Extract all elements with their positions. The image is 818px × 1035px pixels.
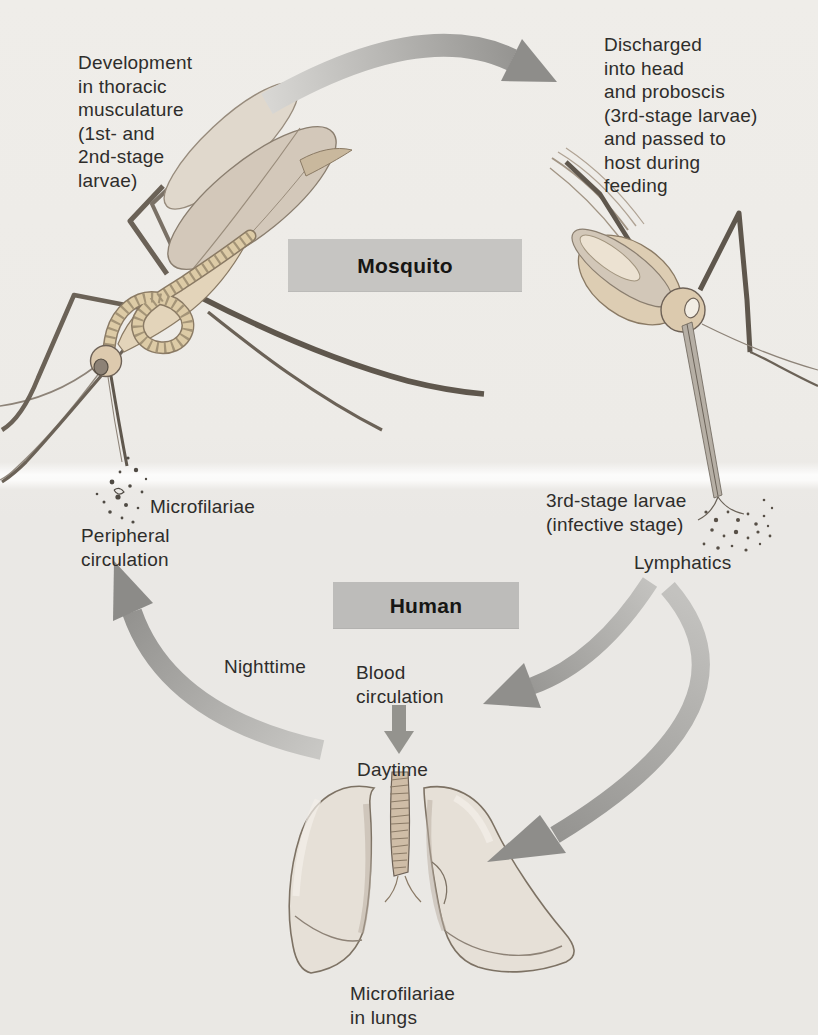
arrow-lymphatics-to-lungs [487,588,701,862]
trachea [385,772,421,902]
mosquito-illustration-right [550,148,818,520]
microfilariae-speckles [96,456,148,523]
label-discharged-proboscis: Discharged into head and proboscis (3rd-… [604,33,758,198]
arrow-blood-circulation-to-daytime [384,705,414,754]
label-blood-circulation: Blood circulation [356,661,444,708]
label-development-thoracic: Development in thoracic musculature (1st… [78,51,192,192]
label-microfilariae-in-lungs: Microfilariae in lungs [350,982,455,1029]
label-third-stage-larvae: 3rd-stage larvae (infective stage) [546,489,687,536]
host-box-human: Human [333,582,519,629]
lungs-illustration [289,772,574,973]
label-lymphatics: Lymphatics [634,551,731,575]
label-nighttime: Nighttime [224,655,306,679]
label-microfilariae: Microfilariae [150,495,255,519]
diagram-canvas: Mosquito Human Development in thoracic m… [0,0,818,1035]
label-peripheral-circulation: Peripheral circulation [81,524,170,571]
arrow-mosquito-to-human-transfer [267,39,557,104]
host-box-human-label: Human [390,594,463,618]
host-box-mosquito-label: Mosquito [357,254,453,278]
label-daytime: Daytime [357,758,428,782]
right-lung [424,787,574,972]
host-box-mosquito: Mosquito [288,239,522,292]
left-lung [289,786,374,973]
